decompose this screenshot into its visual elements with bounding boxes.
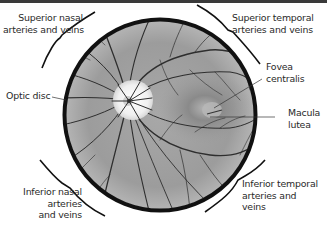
- label-line: Inferior temporal: [242, 178, 318, 190]
- label-line: arteries: [2, 198, 82, 210]
- leader-optic-disc: [52, 97, 66, 100]
- label-line: Optic disc: [6, 90, 50, 102]
- label-line: Fovea: [266, 61, 304, 73]
- label-fovea-centralis: Fovea centralis: [266, 61, 304, 84]
- label-line: arteries and: [242, 190, 318, 202]
- label-line: Superior temporal: [232, 12, 314, 24]
- label-line: Superior nasal: [3, 12, 83, 24]
- label-line: veins: [242, 201, 318, 213]
- label-line: and veins: [2, 209, 82, 221]
- label-macula-lutea: Macula lutea: [288, 107, 320, 130]
- label-optic-disc: Optic disc: [6, 90, 50, 102]
- fovea-spot: [202, 102, 222, 118]
- label-superior-temporal: Superior temporal arteries and veins: [232, 12, 314, 35]
- label-line: Macula: [288, 107, 320, 119]
- label-line: lutea: [288, 119, 320, 131]
- label-line: Inferior nasal: [2, 186, 82, 198]
- label-inferior-nasal: Inferior nasal arteries and veins: [2, 186, 82, 221]
- label-inferior-temporal: Inferior temporal arteries and veins: [242, 178, 318, 213]
- label-line: arteries and veins: [3, 24, 83, 36]
- label-line: centralis: [266, 73, 304, 85]
- label-line: arteries and veins: [232, 24, 314, 36]
- label-superior-nasal: Superior nasal arteries and veins: [3, 12, 83, 35]
